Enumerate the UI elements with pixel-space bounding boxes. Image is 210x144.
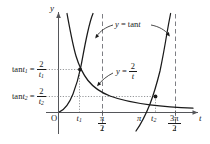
t-axis-label: t: [199, 114, 202, 123]
intersection-point-t1: [78, 68, 82, 72]
origin-label: O: [51, 114, 57, 123]
t-axis-arrowhead: [193, 110, 199, 115]
tan-curve-branch-1: [60, 14, 94, 112]
leader-hyperbola: [98, 73, 113, 85]
y-axis-arrowhead: [56, 12, 61, 18]
three-half-pi-denominator: 2: [168, 124, 181, 133]
tick-label-three-half-pi: 3π 2: [168, 114, 181, 133]
tick-label-t2-sub: 2: [153, 117, 156, 123]
tan-t1-var-sub: 1: [25, 68, 28, 74]
tan-t1-equation: tant1 = 2 t1: [12, 60, 46, 79]
tan-curve-label-equals: =: [121, 19, 126, 29]
tan-curve-label-var: t: [138, 19, 140, 29]
hyperbola-label-fraction: 2 t: [129, 62, 137, 81]
tan-curve-label-y: y: [115, 19, 119, 29]
tick-label-t2: t2: [151, 114, 156, 124]
half-pi-denominator: 2: [98, 124, 106, 133]
tan-t2-equals: =: [30, 92, 35, 101]
tan-t1-denominator: t1: [37, 70, 46, 80]
tan-t2-func: tan: [12, 91, 22, 101]
tan-t2-equation: tant2 = 2 t2: [12, 87, 46, 106]
tan-t1-lhs: tant1: [12, 65, 28, 75]
hyperbola-curve-label: y = 2 t: [116, 62, 137, 81]
tan-t1-fraction: 2 t1: [37, 60, 46, 79]
tan-t2-var-sub: 2: [25, 95, 28, 101]
intersection-point-t2: [154, 95, 158, 99]
tan-t2-fraction: 2 t2: [37, 87, 46, 106]
leader-tan-left: [96, 25, 113, 37]
leader-tan-left-arrowhead: [95, 34, 99, 39]
tan-curve-label: y = tant: [115, 20, 141, 29]
math-figure: y t O t1 π 2 π t2 3π 2 tant1 = 2 t1 tan: [0, 0, 210, 144]
y-axis-label: y: [50, 4, 54, 13]
tick-label-pi: π: [137, 114, 141, 123]
half-pi-fraction: π 2: [98, 114, 106, 133]
tan-t1-func: tan: [12, 64, 22, 74]
tan-t2-den-sub: 2: [41, 100, 44, 106]
tan-t2-lhs: tant2: [12, 92, 28, 102]
tick-label-t1: t1: [77, 114, 82, 124]
tick-label-half-pi: π 2: [98, 114, 106, 133]
hyperbola-label-denominator: t: [129, 72, 137, 81]
tick-label-t1-sub: 1: [79, 117, 82, 123]
tan-t1-den-sub: 1: [41, 73, 44, 79]
tan-curve-label-func: tan: [128, 19, 138, 29]
tan-t2-denominator: t2: [37, 97, 46, 107]
hyperbola-label-equals: =: [122, 67, 127, 76]
tan-t1-equals: =: [30, 65, 35, 74]
three-half-pi-fraction: 3π 2: [168, 114, 181, 133]
hyperbola-label-y: y: [116, 67, 120, 76]
